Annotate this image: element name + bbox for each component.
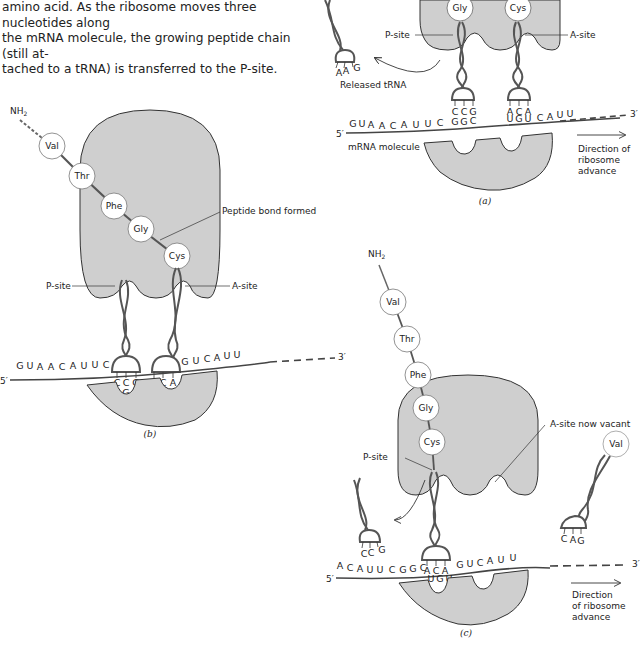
svg-text:G: G — [353, 62, 360, 73]
svg-text:A: A — [343, 65, 350, 76]
svg-text:C: C — [389, 564, 396, 575]
svg-text:5′: 5′ — [336, 129, 344, 139]
svg-text:A: A — [337, 560, 344, 571]
amino-acid-label: Cys — [510, 3, 527, 13]
svg-text:3′: 3′ — [630, 109, 638, 119]
svg-text:U: U — [377, 564, 384, 575]
small-subunit-b — [87, 371, 217, 427]
a-site-label: A-site — [570, 30, 596, 40]
svg-text:U: U — [567, 108, 574, 119]
svg-text:NH2: NH2 — [368, 249, 386, 260]
amino-acid-label: Thr — [399, 334, 415, 344]
svg-text:A: A — [487, 555, 494, 566]
svg-text:G: G — [451, 116, 458, 127]
svg-text:5′: 5′ — [326, 574, 334, 584]
panel-c: NH2 Val Thr Phe Gly Cys A-site now vacan… — [326, 249, 640, 638]
amino-acid-label: Gly — [419, 403, 434, 413]
incoming-amino-acid-label: Val — [609, 439, 622, 449]
panel-a: Gly Cys P-site A-site C C G A C A A — [325, 0, 638, 206]
svg-text:U: U — [81, 360, 88, 371]
p-site-label: P-site — [385, 30, 410, 40]
svg-text:ribosome: ribosome — [578, 155, 620, 165]
svg-text:C: C — [561, 533, 568, 544]
svg-text:Direction of: Direction of — [578, 144, 631, 154]
svg-text:A: A — [401, 119, 408, 130]
ribosome-translation-diagram: Gly Cys P-site A-site C C G A C A A — [0, 0, 641, 650]
svg-text:G: G — [181, 356, 188, 367]
svg-text:U: U — [193, 355, 200, 366]
svg-text:U: U — [27, 360, 34, 371]
svg-text:U: U — [498, 554, 505, 565]
large-subunit-c — [398, 375, 538, 495]
svg-text:U: U — [507, 113, 514, 124]
svg-text:C: C — [59, 361, 66, 372]
svg-text:C: C — [103, 359, 110, 370]
amino-acid-label: Val — [386, 297, 399, 307]
svg-text:C: C — [477, 557, 484, 568]
svg-text:G: G — [16, 360, 23, 371]
svg-text:U: U — [367, 564, 374, 575]
svg-text:A: A — [214, 352, 221, 363]
svg-text:A: A — [547, 111, 554, 122]
amino-acid-label: Gly — [453, 3, 468, 13]
svg-text:U: U — [413, 119, 420, 130]
svg-text:C: C — [470, 115, 477, 126]
svg-text:advance: advance — [572, 612, 611, 622]
amino-acid-label: Phe — [106, 201, 123, 211]
panel-b-label: (b) — [144, 429, 157, 439]
svg-text:C: C — [204, 353, 211, 364]
svg-text:G: G — [436, 573, 443, 584]
p-site-label: P-site — [363, 452, 388, 462]
svg-text:G: G — [456, 559, 463, 570]
svg-text:A: A — [379, 120, 386, 131]
svg-text:U: U — [92, 359, 99, 370]
released-trna-label: Released tRNA — [340, 80, 407, 90]
panel-c-label: (c) — [460, 628, 473, 638]
p-site-label: P-site — [46, 281, 71, 291]
svg-text:G: G — [399, 564, 406, 575]
svg-text:C: C — [368, 547, 375, 558]
svg-text:A: A — [48, 361, 55, 372]
amino-acid-label: Thr — [74, 171, 90, 181]
svg-text:C: C — [347, 562, 354, 573]
svg-text:G: G — [515, 113, 522, 124]
svg-text:G: G — [378, 544, 385, 555]
small-subunit-a — [424, 133, 552, 190]
svg-text:C: C — [437, 117, 444, 128]
svg-text:U: U — [510, 552, 517, 563]
svg-text:5′: 5′ — [0, 376, 8, 386]
svg-text:G: G — [409, 563, 416, 574]
a-site-label: A-site — [232, 281, 258, 291]
svg-text:G: G — [577, 535, 584, 546]
svg-text:A: A — [570, 534, 577, 545]
panel-a-label: (a) — [479, 196, 492, 206]
svg-text:U: U — [557, 109, 564, 120]
svg-text:A: A — [357, 563, 364, 574]
svg-text:A: A — [336, 67, 343, 78]
svg-text:of ribosome: of ribosome — [572, 601, 626, 611]
svg-text:3′: 3′ — [632, 559, 640, 569]
mrna-label: mRNA molecule — [348, 142, 420, 152]
svg-text:3′: 3′ — [338, 352, 346, 362]
svg-text:C: C — [361, 548, 368, 559]
svg-text:advance: advance — [578, 166, 617, 176]
panel-b: NH2 Val Thr Phe Gly Cys Peptide bond for… — [0, 106, 346, 439]
svg-text:A: A — [70, 360, 77, 371]
amino-acid-label: Gly — [134, 224, 149, 234]
svg-text:U: U — [525, 113, 532, 124]
svg-text:Direction: Direction — [572, 590, 613, 600]
svg-text:A: A — [37, 361, 44, 372]
svg-text:C: C — [537, 112, 544, 123]
svg-text:U: U — [359, 118, 366, 129]
svg-text:G: G — [460, 116, 467, 127]
svg-text:G: G — [349, 118, 356, 129]
amino-acid-label: Cys — [424, 437, 441, 447]
a-site-vacant-label: A-site now vacant — [550, 419, 631, 429]
svg-text:A: A — [368, 119, 375, 130]
amino-acid-label: Phe — [410, 370, 427, 380]
svg-text:U: U — [234, 349, 241, 360]
svg-text:C: C — [390, 120, 397, 131]
amino-acid-label: Cys — [169, 251, 186, 261]
amino-acid-label: Val — [45, 141, 58, 151]
peptide-bond-label: Peptide bond formed — [222, 206, 316, 216]
